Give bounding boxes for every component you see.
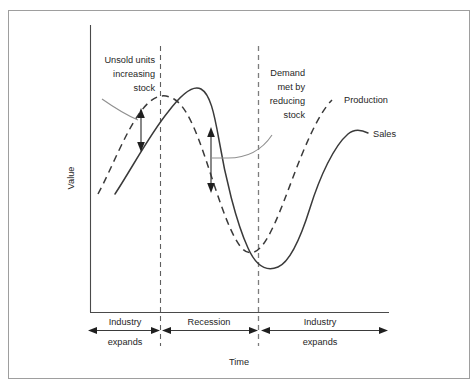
series-label-production: Production xyxy=(344,95,388,105)
figure-border xyxy=(9,11,470,379)
annotation-unsold-line-1: Unsold units xyxy=(104,55,155,65)
phase-1-line-1: Industry xyxy=(109,317,142,327)
annotation-demand-line-3: reducing xyxy=(270,96,305,106)
annotation-demand-line-2: met by xyxy=(277,82,305,92)
phase-3-line-2: expands xyxy=(303,337,338,347)
phase-1-line-2: expands xyxy=(108,337,143,347)
x-axis-label: Time xyxy=(229,357,249,367)
phase-3-line-1: Industry xyxy=(304,317,337,327)
business-cycle-diagram: Unsold units increasing stock Demand met… xyxy=(0,0,476,385)
figure-container: Unsold units increasing stock Demand met… xyxy=(0,0,476,385)
annotation-demand-line-4: stock xyxy=(284,110,306,120)
annotation-demand-line-1: Demand xyxy=(270,68,305,78)
y-axis-label: Value xyxy=(66,167,76,190)
phase-label-recession: Recession xyxy=(188,317,231,327)
annotation-unsold-line-2: increasing xyxy=(113,69,155,79)
series-label-sales: Sales xyxy=(373,129,396,139)
phase-2-line-1: Recession xyxy=(188,317,231,327)
annotation-unsold-line-3: stock xyxy=(134,83,156,93)
